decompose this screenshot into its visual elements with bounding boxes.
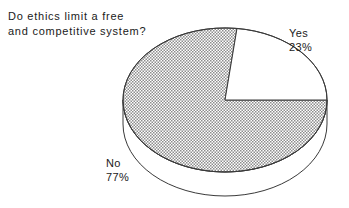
slice-label-yes-percent: 23%	[289, 40, 312, 54]
slice-label-yes: Yes 23%	[289, 26, 312, 54]
slice-label-no-name: No	[106, 157, 121, 169]
slice-label-yes-name: Yes	[289, 27, 308, 39]
slice-label-no: No 77%	[106, 156, 129, 184]
chart-figure: Do ethics limit a freeand competitive sy…	[0, 0, 349, 208]
slice-label-no-percent: 77%	[106, 170, 129, 184]
